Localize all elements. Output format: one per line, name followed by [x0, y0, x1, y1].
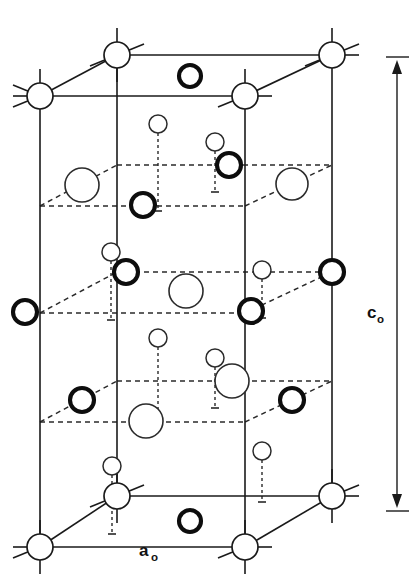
atom-large-upper-middle-left: [65, 168, 99, 202]
atom-large-center-middle: [169, 274, 203, 308]
atom-small-bottom-a: [103, 457, 121, 475]
atom-corner-bottom-back-right: [319, 483, 345, 509]
atom-bold-center-left: [13, 300, 37, 324]
crystal-structure-figure: c o a o: [0, 0, 417, 579]
atom-bold-lower-middle-right: [280, 388, 304, 412]
c-axis-label-subscript: o: [377, 313, 384, 325]
a-axis-label-subscript: o: [151, 551, 158, 563]
atom-bold-lower-middle-left: [70, 388, 94, 412]
atom-bold-center-mid-right: [239, 299, 263, 323]
atom-small-center-b: [253, 261, 271, 279]
atom-small-center-a: [102, 243, 120, 261]
atom-small-lower-a: [149, 329, 167, 347]
atom-corner-top-back-left: [104, 42, 130, 68]
c-axis-label: c o: [367, 303, 384, 325]
atom-corner-bottom-front-right: [232, 534, 258, 560]
atom-bold-center-inner: [114, 260, 138, 284]
a-axis-label: a o: [139, 541, 158, 563]
atom-large-upper-middle-right: [276, 168, 308, 200]
atom-corner-top-front-right: [232, 83, 258, 109]
atom-bold-top-face: [179, 65, 201, 87]
atom-small-upper-b: [206, 133, 224, 151]
atom-bold-bottom-face: [179, 510, 201, 532]
atom-small-lower-b: [206, 349, 224, 367]
atom-corner-bottom-front-left: [27, 534, 53, 560]
atom-large-lower-middle-front: [129, 404, 163, 438]
c-axis-label-base: c: [367, 303, 376, 322]
a-axis-label-base: a: [139, 541, 149, 560]
atom-bold-center-right: [320, 260, 344, 284]
atom-large-lower-middle-back: [215, 364, 249, 398]
c-axis-dimension-marker: [386, 57, 409, 511]
atom-corner-top-back-right: [319, 42, 345, 68]
atom-bold-upper-middle-front: [131, 193, 155, 217]
atom-corner-bottom-back-left: [104, 483, 130, 509]
atom-small-upper-a: [149, 115, 167, 133]
atom-corner-top-front-left: [27, 83, 53, 109]
atom-small-bottom-b: [253, 442, 271, 460]
atom-stem-group: [107, 133, 266, 534]
atom-bold-upper-middle-center: [217, 153, 241, 177]
